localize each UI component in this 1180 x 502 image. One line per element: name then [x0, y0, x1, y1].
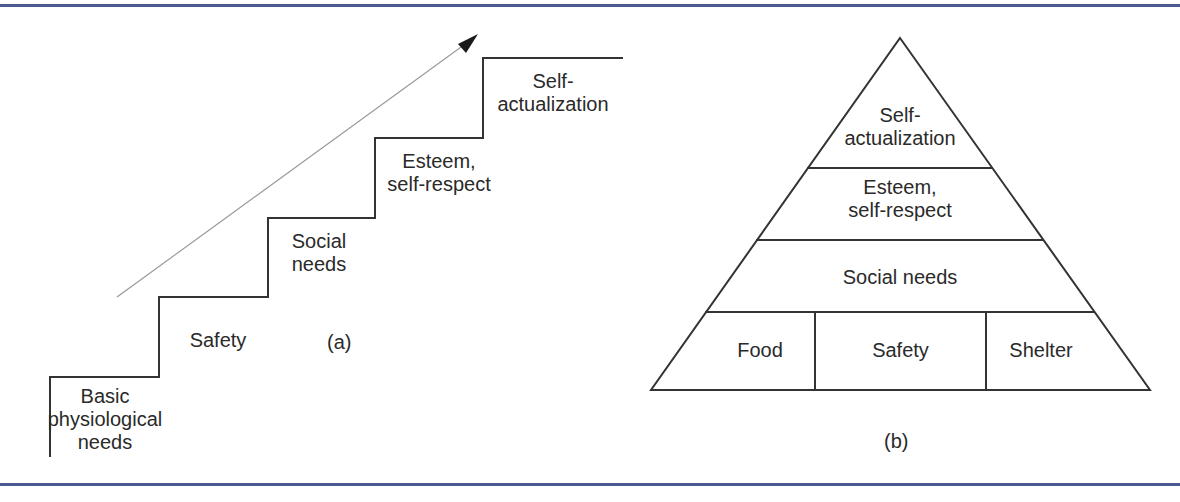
step-label-social-needs: Social needs: [270, 230, 368, 276]
figure-b-caption: (b): [884, 430, 908, 453]
step-label-basic-physiological-needs: Basic physiological needs: [40, 385, 170, 454]
step-label-safety: Safety: [168, 329, 268, 352]
cell-label-food: Food: [705, 339, 815, 362]
tier-label-social-needs: Social needs: [800, 266, 1000, 289]
tier-label-self-actualization: Self- actualization: [820, 104, 980, 150]
cell-label-safety: Safety: [815, 339, 986, 362]
cell-label-shelter: Shelter: [986, 339, 1096, 362]
tier-label-esteem: Esteem, self-respect: [820, 176, 980, 222]
arrowhead-icon: [458, 34, 478, 53]
step-label-esteem: Esteem, self-respect: [373, 150, 505, 196]
figure-a-caption: (a): [327, 331, 351, 354]
step-label-self-actualization: Self- actualization: [483, 70, 623, 116]
